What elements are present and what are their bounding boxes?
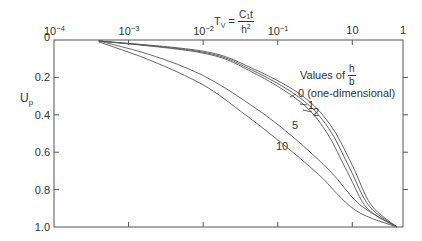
y-tick-label: 0.8 — [20, 185, 50, 196]
y-axis-label-sub: p — [29, 98, 33, 107]
y-tick-label: 0 — [20, 32, 50, 43]
legend-title-prefix: Values of — [300, 69, 348, 81]
y-tick-label: 0.4 — [20, 110, 50, 121]
curve-label-10: 10 — [276, 141, 288, 152]
x-label-equals: = — [225, 15, 238, 27]
legend-title: Values of h b — [300, 64, 356, 87]
legend-title-fraction: h b — [348, 64, 356, 87]
x-axis-label: TV = C1t h2 — [214, 10, 254, 35]
x-label-den-sup: 2 — [247, 23, 251, 30]
leader-1 — [300, 104, 307, 105]
x-label-fraction: C1t h2 — [238, 10, 254, 35]
legend-frac-num: h — [348, 64, 356, 76]
x-tick-label: 10 — [346, 25, 358, 36]
curve-label-2: 2 — [313, 107, 319, 118]
legend-frac-den: b — [348, 76, 356, 87]
x-label-num-tail: t — [250, 9, 253, 20]
y-tick-label: 1.0 — [20, 222, 50, 233]
curve-label-0: 0 (one-dimensional) — [298, 88, 395, 99]
y-tick-label: 0.2 — [20, 72, 50, 83]
curve-label-5: 5 — [292, 120, 298, 131]
y-axis-label: Up — [20, 92, 33, 107]
x-tick-label: 10−2 — [193, 25, 214, 37]
y-tick-label: 0.6 — [20, 147, 50, 158]
x-tick-label: 10−1 — [268, 25, 289, 37]
x-label-lhs: T — [214, 15, 221, 27]
x-tick-label: 1 — [400, 25, 406, 36]
y-axis-label-main: U — [20, 91, 29, 105]
x-tick-label: 10−3 — [119, 25, 140, 37]
